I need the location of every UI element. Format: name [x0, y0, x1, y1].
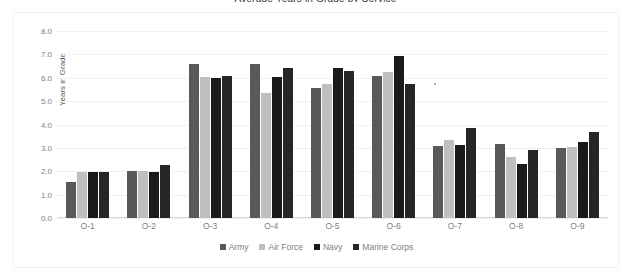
bar[interactable] — [506, 157, 516, 218]
bar[interactable] — [394, 56, 404, 218]
y-axis-tick-label: 8.0 — [41, 27, 52, 36]
bar[interactable] — [272, 77, 282, 218]
gridline: 0.0 — [57, 218, 608, 219]
y-axis-tick-label: 2.0 — [41, 167, 52, 176]
chart-plot-frame: Years in Grade 0.01.02.03.04.05.06.07.08… — [12, 12, 619, 268]
plot-area: 0.01.02.03.04.05.06.07.08.0 — [57, 31, 608, 218]
legend-item[interactable]: Marine Corps — [353, 242, 413, 252]
bar[interactable] — [578, 142, 588, 218]
bar[interactable] — [88, 172, 98, 218]
y-axis-tick-label: 6.0 — [41, 73, 52, 82]
legend-swatch-icon — [314, 244, 320, 250]
x-axis-tick-label: O-5 — [302, 221, 363, 231]
bar[interactable] — [138, 171, 148, 218]
bar[interactable] — [556, 148, 566, 218]
legend-swatch-icon — [353, 244, 359, 250]
bar-group — [363, 31, 424, 218]
bar-group — [547, 31, 608, 218]
bar[interactable] — [311, 88, 321, 218]
legend-item[interactable]: Air Force — [259, 242, 302, 252]
chart-title: Average Years in Grade by Service — [0, 0, 631, 2]
bar[interactable] — [261, 93, 271, 218]
bar[interactable] — [322, 84, 332, 218]
bar[interactable] — [466, 128, 476, 218]
chart-legend: ArmyAir ForceNavyMarine Corps — [13, 242, 620, 252]
bar[interactable] — [517, 164, 527, 218]
bar[interactable] — [455, 145, 465, 218]
legend-label: Air Force — [268, 242, 302, 252]
bar-group — [179, 31, 240, 218]
bar[interactable] — [66, 182, 76, 218]
bar[interactable] — [200, 77, 210, 218]
bar[interactable] — [149, 172, 159, 218]
bar[interactable] — [333, 68, 343, 218]
bar[interactable] — [433, 146, 443, 218]
bar[interactable] — [567, 147, 577, 218]
bar-group — [118, 31, 179, 218]
x-axis-tick-label: O-4 — [241, 221, 302, 231]
y-axis-tick-label: 1.0 — [41, 190, 52, 199]
bar[interactable] — [405, 84, 415, 218]
bar[interactable] — [283, 68, 293, 218]
bar[interactable] — [372, 76, 382, 218]
bar[interactable] — [495, 144, 505, 218]
legend-item[interactable]: Army — [220, 242, 249, 252]
y-axis-tick-label: 7.0 — [41, 50, 52, 59]
x-axis-tick-label: O-7 — [424, 221, 485, 231]
bar[interactable] — [77, 172, 87, 218]
bar[interactable] — [250, 64, 260, 218]
bar[interactable] — [344, 71, 354, 218]
x-axis-tick-label: O-3 — [179, 221, 240, 231]
stray-artifact-dot — [434, 83, 436, 85]
bar[interactable] — [444, 140, 454, 218]
bar[interactable] — [222, 76, 232, 218]
bar[interactable] — [160, 165, 170, 218]
bar-group — [241, 31, 302, 218]
bar[interactable] — [589, 132, 599, 218]
legend-swatch-icon — [220, 244, 226, 250]
bar-group — [486, 31, 547, 218]
y-axis-tick-label: 0.0 — [41, 214, 52, 223]
y-axis-tick-label: 3.0 — [41, 143, 52, 152]
x-axis-tick-label: O-6 — [363, 221, 424, 231]
y-axis-tick-label: 5.0 — [41, 97, 52, 106]
legend-label: Army — [229, 242, 249, 252]
bar-group — [57, 31, 118, 218]
bar[interactable] — [189, 64, 199, 218]
bar-groups — [57, 31, 608, 218]
bar[interactable] — [211, 78, 221, 218]
legend-swatch-icon — [259, 244, 265, 250]
bar-chart: Average Years in Grade by Service Years … — [0, 0, 631, 276]
legend-label: Marine Corps — [362, 242, 413, 252]
y-axis-tick-label: 4.0 — [41, 120, 52, 129]
bar-group — [424, 31, 485, 218]
x-axis-tick-label: O-2 — [118, 221, 179, 231]
x-axis-tick-label: O-8 — [486, 221, 547, 231]
x-axis-tick-label: O-1 — [57, 221, 118, 231]
x-axis-tick-labels: O-1O-2O-3O-4O-5O-6O-7O-8O-9 — [57, 221, 608, 231]
x-axis-tick-label: O-9 — [547, 221, 608, 231]
bar[interactable] — [99, 172, 109, 218]
bar[interactable] — [528, 150, 538, 218]
bar-group — [302, 31, 363, 218]
bar[interactable] — [383, 72, 393, 218]
legend-item[interactable]: Navy — [314, 242, 342, 252]
legend-label: Navy — [323, 242, 342, 252]
bar[interactable] — [127, 171, 137, 218]
